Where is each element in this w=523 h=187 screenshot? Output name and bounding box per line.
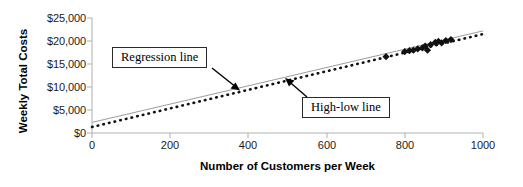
plot-canvas [0,0,523,187]
scatter-points [382,36,454,60]
high-low-line-callout: High-low line [302,97,390,118]
y-axis-ticks [87,18,92,133]
chart-figure: $25,000 $20,000 $15,000 $10,000 $5,000 $… [0,0,523,187]
regression-line-callout: Regression line [112,47,207,68]
high-low-callout-arrow [285,78,307,97]
x-axis-ticks [92,133,483,138]
regression-callout-arrow [212,68,240,91]
